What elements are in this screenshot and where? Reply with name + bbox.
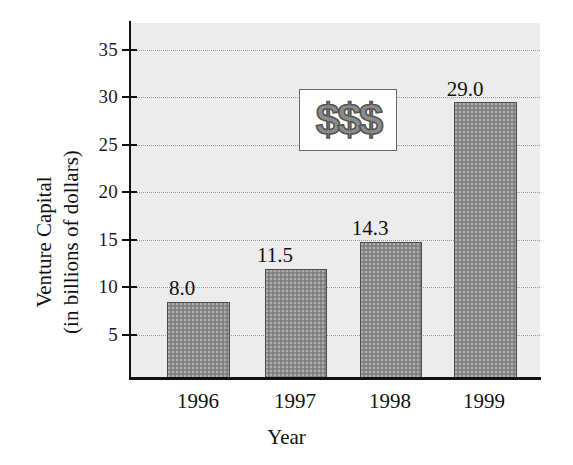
dollar-sign-icon-3: $ (359, 98, 380, 142)
bar-value-label-1996: 8.0 (137, 278, 227, 299)
x-tick-label-1998: 1998 (345, 389, 435, 413)
bar-value-label-1998: 14.3 (325, 218, 415, 239)
y-tick-mark-10 (122, 286, 137, 288)
y-axis-title-line-2: (in billions of dollars) (59, 150, 83, 334)
y-tick-mark-15 (122, 239, 137, 241)
bar-1996[interactable] (167, 302, 230, 378)
x-axis-line (129, 377, 541, 380)
y-axis-title-line-1: Venture Capital (32, 176, 56, 307)
y-axis-title: Venture Capital(in billions of dollars) (31, 77, 85, 407)
y-axis-line (129, 21, 131, 380)
bar-chart-figure: $ $ $ 35 30 25 20 15 10 5 8.0 11.5 14.3 … (0, 0, 573, 465)
y-tick-mark-30 (122, 96, 137, 98)
bar-1997[interactable] (265, 269, 327, 378)
x-tick-label-1996: 1996 (153, 389, 243, 413)
gridline-35 (131, 50, 540, 51)
y-axis-title-container: Venture Capital(in billions of dollars) (14, 30, 104, 360)
bar-value-label-1999: 29.0 (420, 79, 510, 100)
y-tick-mark-35 (122, 49, 137, 51)
x-axis-title: Year (0, 425, 573, 449)
y-tick-mark-20 (122, 191, 137, 193)
dollar-sign-icon-2: $ (337, 98, 358, 142)
bar-1999[interactable] (454, 102, 517, 378)
x-tick-label-1999: 1999 (439, 389, 529, 413)
y-tick-mark-5 (122, 334, 137, 336)
y-tick-mark-25 (122, 144, 137, 146)
bar-1998[interactable] (360, 242, 422, 378)
dollar-signs-box: $ $ $ (299, 89, 397, 151)
x-tick-label-1997: 1997 (250, 389, 340, 413)
dollar-sign-icon-1: $ (316, 98, 337, 142)
bar-value-label-1997: 11.5 (230, 245, 320, 266)
